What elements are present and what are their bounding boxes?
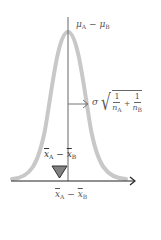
sample-difference-label-axis: xA − xB [55, 190, 87, 200]
mean-difference-label: μA − μB [76, 20, 110, 30]
sample-marker-triangle [52, 166, 67, 178]
sample-difference-label-upper: xA − xB [44, 150, 76, 160]
sqrt-icon: √ [101, 92, 111, 114]
standard-error-label: σ √ 1nA + 1nB [92, 90, 142, 115]
